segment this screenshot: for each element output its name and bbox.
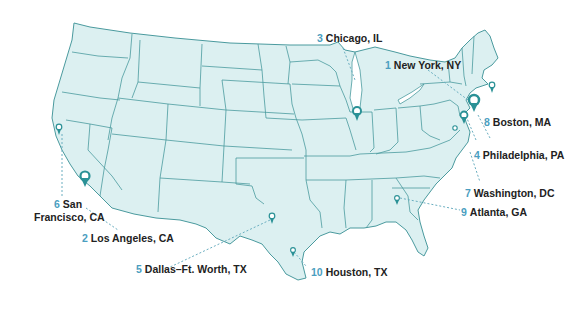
city-label-washington: 7Washington, DC	[465, 187, 555, 199]
city-label-los-angeles: 2Los Angeles, CA	[82, 232, 174, 244]
city-label-boston: 8Boston, MA	[484, 116, 551, 128]
city-label-chicago: 3Chicago, IL	[317, 32, 382, 44]
city-label-dallas: 5Dallas–Ft. Worth, TX	[136, 263, 247, 275]
pin-washington-icon	[453, 126, 457, 130]
pin-boston-icon	[489, 82, 495, 93]
city-label-philadelphia: 4Philadelphia, PA	[474, 149, 564, 161]
city-label-houston: 10Houston, TX	[311, 266, 388, 278]
city-label-atlanta: 9Atlanta, GA	[461, 206, 527, 218]
city-label-new-york: 1New York, NY	[385, 59, 461, 71]
city-label-san-francisco: 6San Francisco, CA	[34, 198, 105, 224]
pin-new-york-icon	[469, 95, 479, 112]
